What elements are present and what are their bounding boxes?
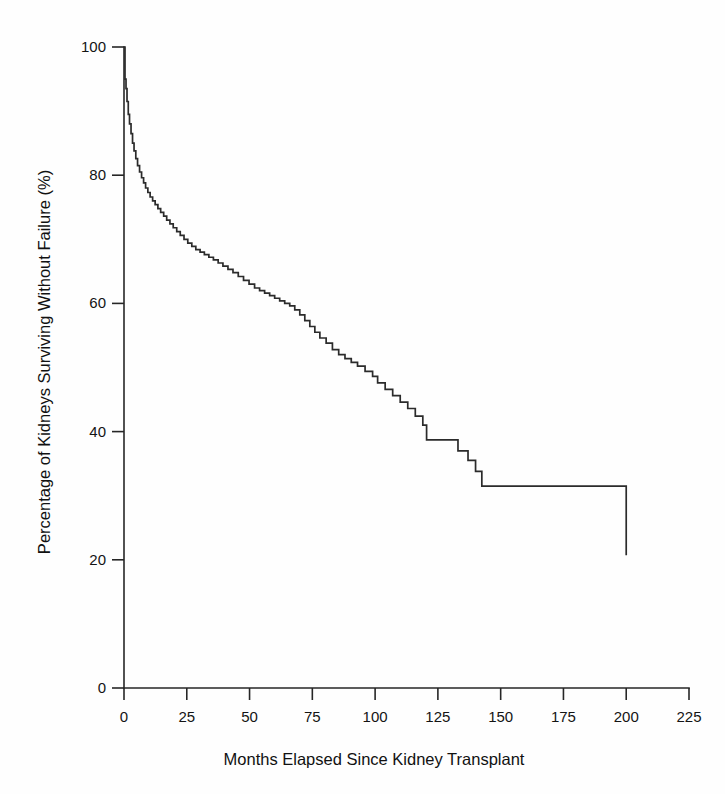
y-tick-label: 40 — [89, 423, 106, 440]
x-axis-title: Months Elapsed Since Kidney Transplant — [224, 750, 525, 768]
x-tick-label: 175 — [551, 708, 576, 725]
chart-background — [0, 0, 725, 794]
x-tick-label: 75 — [304, 708, 321, 725]
y-tick-label: 100 — [81, 38, 106, 55]
survival-chart: 020406080100 0255075100125150175200225 M… — [0, 0, 725, 794]
kaplan-meier-figure: 020406080100 0255075100125150175200225 M… — [0, 0, 725, 794]
x-tick-label: 150 — [488, 708, 513, 725]
y-tick-label: 0 — [98, 679, 106, 696]
x-tick-label: 225 — [676, 708, 701, 725]
x-tick-label: 50 — [241, 708, 258, 725]
y-tick-label: 80 — [89, 166, 106, 183]
x-tick-label: 200 — [614, 708, 639, 725]
y-axis-title: Percentage of Kidneys Surviving Without … — [35, 170, 53, 554]
y-tick-label: 60 — [89, 294, 106, 311]
x-tick-label: 25 — [178, 708, 195, 725]
x-tick-label: 100 — [363, 708, 388, 725]
x-tick-label: 0 — [120, 708, 128, 725]
y-tick-label: 20 — [89, 551, 106, 568]
x-tick-label: 125 — [425, 708, 450, 725]
